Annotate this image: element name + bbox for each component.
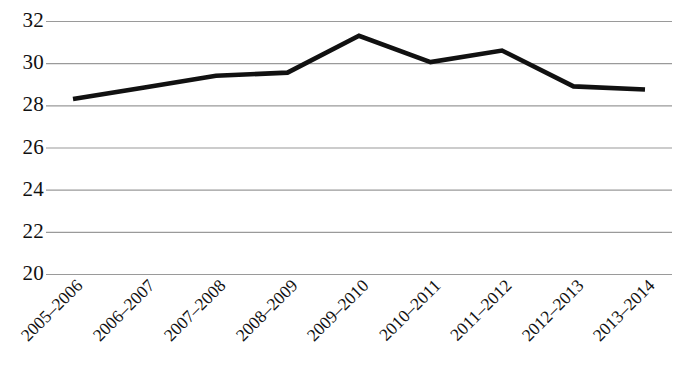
y-tick-label: 28	[8, 94, 44, 115]
plot-area	[0, 0, 680, 290]
y-tick-label: 30	[8, 52, 44, 73]
y-tick-label: 32	[8, 10, 44, 31]
data-series-group	[73, 36, 645, 99]
line-chart: 20222426283032 2005–20062006–20072007–20…	[0, 0, 680, 370]
y-tick-label: 22	[8, 221, 44, 242]
y-axis-tick-labels: 20222426283032	[0, 0, 44, 290]
x-axis-tick-labels: 2005–20062006–20072007–20082008–20092009…	[0, 276, 680, 370]
data-line	[73, 36, 645, 99]
y-tick-label: 26	[8, 137, 44, 158]
chart-canvas	[0, 0, 680, 290]
y-tick-label: 24	[8, 179, 44, 200]
gridlines-group	[46, 22, 672, 275]
